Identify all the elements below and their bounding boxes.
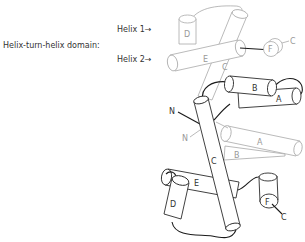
front-n-terminus-label: N <box>169 107 175 116</box>
front-helix-f: F <box>259 173 278 208</box>
back-helix-d-label: D <box>184 30 190 39</box>
back-helix-f: F <box>264 39 283 57</box>
back-helix-d: D <box>179 15 196 44</box>
back-helix-c-label: C <box>222 63 228 72</box>
front-helix-b-label: B <box>252 84 258 93</box>
back-n-terminus-label: N <box>182 134 188 143</box>
back-n-term-line <box>190 130 200 137</box>
back-helix-b-label: B <box>234 151 240 160</box>
back-helix-e-label: E <box>203 55 208 64</box>
back-c-term-line <box>282 41 289 43</box>
front-helix-f-label: F <box>265 198 270 207</box>
back-helix-e: E <box>166 39 247 72</box>
front-helix-e-label: E <box>194 179 199 188</box>
front-helix-b: B <box>224 76 277 97</box>
back-helix-f-label: F <box>268 45 273 54</box>
front-helix-d-label: D <box>170 200 176 209</box>
front-loop-ac <box>214 104 230 120</box>
back-helix-a-label: A <box>257 138 263 147</box>
front-helix-a-label: A <box>276 95 282 104</box>
back-link-ca <box>216 122 228 128</box>
front-c-terminus-label: C <box>281 213 287 222</box>
front-helix-c-label: C <box>211 157 217 166</box>
protein-dimer-diagram: C D E F C A <box>0 0 305 242</box>
front-helix-c: C <box>193 95 241 233</box>
back-c-terminus-label: C <box>290 37 296 46</box>
